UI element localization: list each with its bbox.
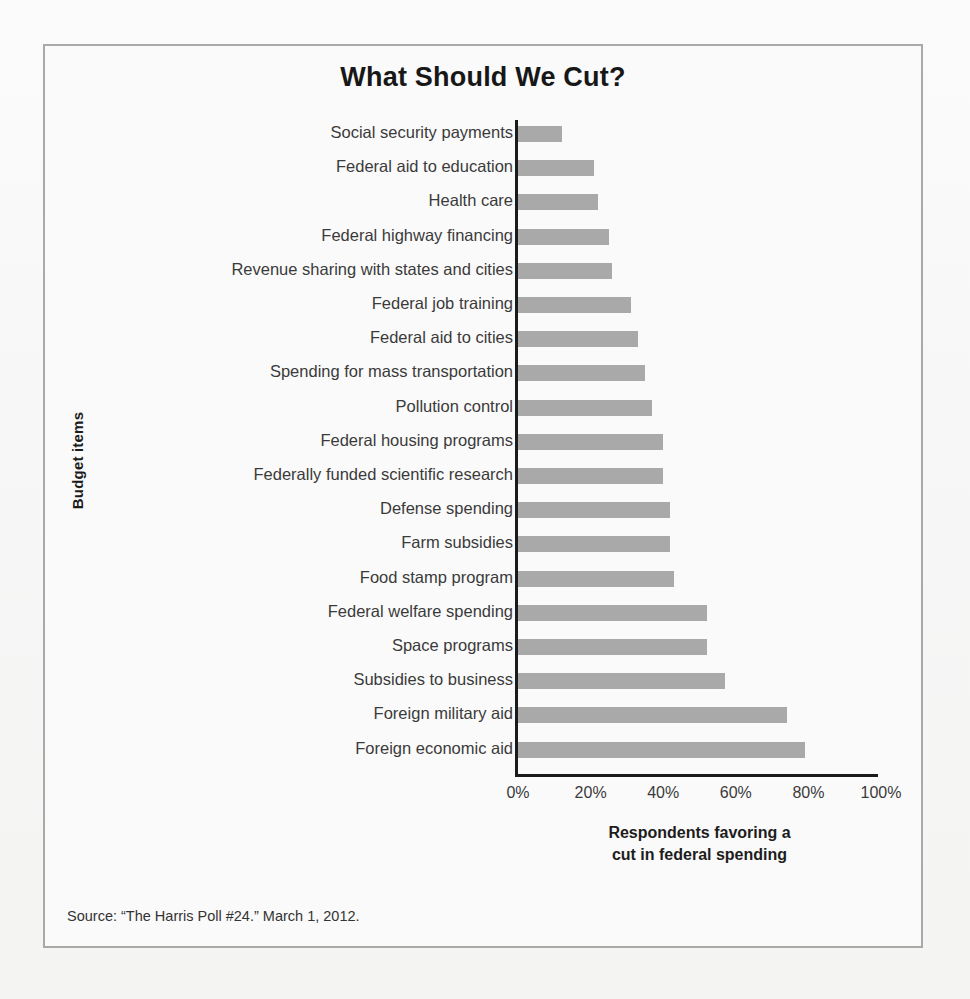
plot-area: Budget items Social security paymentsFed… xyxy=(45,122,925,822)
x-axis-title: Respondents favoring a cut in federal sp… xyxy=(518,822,881,866)
x-tick-label: 60% xyxy=(701,784,771,802)
bar xyxy=(518,331,638,347)
x-tick-label: 80% xyxy=(773,784,843,802)
page-background: .... ............ .... ... .... ....... … xyxy=(0,0,970,999)
category-label: Farm subsidies xyxy=(165,533,513,552)
bar xyxy=(518,605,707,621)
category-label: Spending for mass transportation xyxy=(165,362,513,381)
x-axis-tick-labels: 0%20%40%60%80%100% xyxy=(45,784,925,810)
category-label: Health care xyxy=(165,191,513,210)
bar xyxy=(518,502,670,518)
x-tick-label: 20% xyxy=(556,784,626,802)
y-axis-title: Budget items xyxy=(69,381,86,541)
category-label: Defense spending xyxy=(165,499,513,518)
category-label: Subsidies to business xyxy=(165,670,513,689)
bar xyxy=(518,194,598,210)
category-label: Revenue sharing with states and cities xyxy=(165,260,513,279)
x-tick-label: 40% xyxy=(628,784,698,802)
x-axis-title-line2: cut in federal spending xyxy=(518,844,881,866)
bar xyxy=(518,742,805,758)
bar xyxy=(518,468,663,484)
source-note: Source: “The Harris Poll #24.” March 1, … xyxy=(67,908,360,924)
bar xyxy=(518,297,631,313)
category-label: Pollution control xyxy=(165,397,513,416)
bar xyxy=(518,229,609,245)
chart-frame: What Should We Cut? Budget items Social … xyxy=(43,44,923,948)
category-label: Foreign military aid xyxy=(165,704,513,723)
bar xyxy=(518,434,663,450)
category-label: Food stamp program xyxy=(165,568,513,587)
category-label: Federal housing programs xyxy=(165,431,513,450)
category-label: Federally funded scientific research xyxy=(165,465,513,484)
category-label: Federal welfare spending xyxy=(165,602,513,621)
category-label: Social security payments xyxy=(165,123,513,142)
category-label: Space programs xyxy=(165,636,513,655)
category-labels: Social security paymentsFederal aid to e… xyxy=(165,122,513,782)
bar xyxy=(518,400,652,416)
bar-series xyxy=(518,122,918,777)
category-label: Federal aid to cities xyxy=(165,328,513,347)
bar xyxy=(518,707,787,723)
bar xyxy=(518,160,594,176)
bar xyxy=(518,126,562,142)
category-label: Federal highway financing xyxy=(165,226,513,245)
chart-title: What Should We Cut? xyxy=(45,62,921,93)
bar xyxy=(518,536,670,552)
bar xyxy=(518,365,645,381)
x-tick-label: 0% xyxy=(483,784,553,802)
category-label: Federal job training xyxy=(165,294,513,313)
bar xyxy=(518,571,674,587)
bar xyxy=(518,673,725,689)
bar xyxy=(518,639,707,655)
x-tick-label: 100% xyxy=(846,784,916,802)
category-label: Federal aid to education xyxy=(165,157,513,176)
category-label: Foreign economic aid xyxy=(165,739,513,758)
x-axis-title-line1: Respondents favoring a xyxy=(518,822,881,844)
bar xyxy=(518,263,612,279)
